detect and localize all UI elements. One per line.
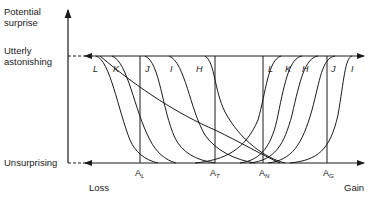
- curve-left-K: [112, 56, 176, 163]
- x-right-label: Gain: [344, 182, 364, 193]
- top-level-line1: Utterly: [4, 45, 52, 56]
- curve-label-right-H: H: [302, 64, 309, 74]
- surprise-diagram: [0, 0, 374, 202]
- curve-label-right-J: J: [331, 64, 336, 74]
- curve-left-J: [145, 56, 215, 163]
- bottom-level-label: Unsurprising: [4, 157, 57, 168]
- curve-label-left-L: L: [93, 64, 98, 74]
- marker-AG: AG: [323, 168, 334, 179]
- curve-label-left-K: K: [113, 64, 119, 74]
- curve-label-left-H: H: [196, 64, 203, 74]
- marker-AL: AL: [135, 168, 144, 179]
- y-title-line1: Potential: [4, 6, 41, 17]
- curve-label-left-J: J: [145, 64, 150, 74]
- top-level-line2: astonishing: [4, 56, 52, 67]
- curve-long: [100, 56, 280, 163]
- y-title-line2: surprise: [4, 17, 41, 28]
- curve-label-right-I: I: [351, 64, 354, 74]
- marker-AT: AT: [210, 168, 220, 179]
- top-level-label: Utterly astonishing: [4, 45, 52, 67]
- curve-label-left-I: I: [170, 64, 173, 74]
- curve-left-I: [169, 56, 255, 163]
- marker-AN: AN: [259, 168, 269, 179]
- curve-right-I: [290, 56, 352, 163]
- curve-label-right-L: L: [268, 64, 273, 74]
- y-axis-title: Potential surprise: [4, 6, 41, 28]
- x-left-label: Loss: [89, 182, 109, 193]
- curve-label-right-K: K: [285, 64, 291, 74]
